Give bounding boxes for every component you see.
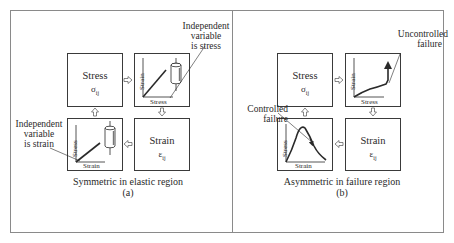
diagram-graphics (0, 0, 454, 243)
cycle-arrows-a (92, 77, 166, 148)
cycle-arrows-b (302, 77, 377, 148)
